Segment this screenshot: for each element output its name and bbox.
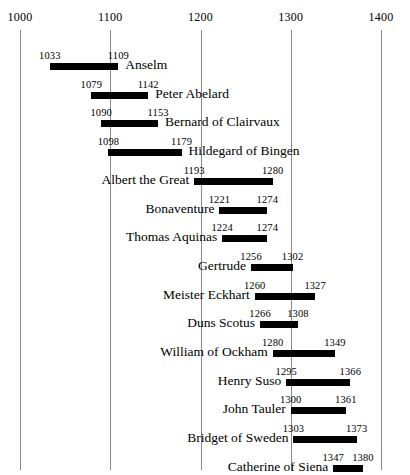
timeline-bar[interactable] (219, 207, 267, 214)
timeline-bar[interactable] (260, 321, 298, 328)
end-year-label: 1308 (287, 308, 308, 319)
timeline-bar[interactable] (91, 92, 148, 99)
person-name-label: Meister Eckhart (163, 287, 250, 303)
start-year-label: 1098 (98, 136, 119, 147)
person-name-label: Peter Abelard (155, 86, 229, 102)
timeline-bar[interactable] (293, 436, 356, 443)
timeline-bar[interactable] (108, 149, 181, 156)
timeline-bar[interactable] (255, 293, 315, 300)
end-year-label: 1373 (346, 423, 367, 434)
person-name-label: Duns Scotus (187, 315, 255, 331)
timeline-bar[interactable] (273, 350, 335, 357)
end-year-label: 1349 (324, 337, 345, 348)
timeline-bar[interactable] (251, 264, 293, 271)
timeline-bar[interactable] (333, 465, 363, 472)
end-year-label: 1361 (335, 394, 356, 405)
end-year-label: 1280 (262, 165, 283, 176)
end-year-label: 1274 (257, 222, 278, 233)
timeline-bar[interactable] (291, 407, 346, 414)
end-year-label: 1302 (282, 251, 303, 262)
start-year-label: 1090 (91, 107, 112, 118)
end-year-label: 1274 (257, 194, 278, 205)
timeline-bar[interactable] (286, 379, 350, 386)
timeline-row: 13471380Catherine of Siena (0, 0, 410, 29)
timeline-bar[interactable] (222, 235, 267, 242)
person-name-label: William of Ockham (160, 344, 267, 360)
timeline-bar[interactable] (101, 120, 158, 127)
start-year-label: 1033 (39, 50, 60, 61)
end-year-label: 1327 (304, 280, 325, 291)
person-name-label: Thomas Aquinas (126, 229, 217, 245)
timeline-bar[interactable] (50, 63, 119, 70)
person-name-label: Albert the Great (101, 172, 189, 188)
person-name-label: Bridget of Sweden (187, 430, 288, 446)
gridline-1400 (381, 30, 382, 470)
timeline-bar[interactable] (194, 178, 273, 185)
gridline-1000 (20, 30, 21, 470)
person-name-label: Henry Suso (218, 373, 281, 389)
person-name-label: Anselm (125, 57, 167, 73)
end-year-label: 1380 (352, 452, 373, 463)
person-name-label: Hildegard of Bingen (189, 143, 300, 159)
person-name-label: John Tauler (223, 401, 286, 417)
person-name-label: Bernard of Clairvaux (165, 114, 280, 130)
person-name-label: Gertrude (198, 258, 246, 274)
person-name-label: Catherine of Siena (228, 459, 328, 475)
start-year-label: 1079 (81, 79, 102, 90)
end-year-label: 1366 (340, 366, 361, 377)
person-name-label: Bonaventure (145, 201, 214, 217)
